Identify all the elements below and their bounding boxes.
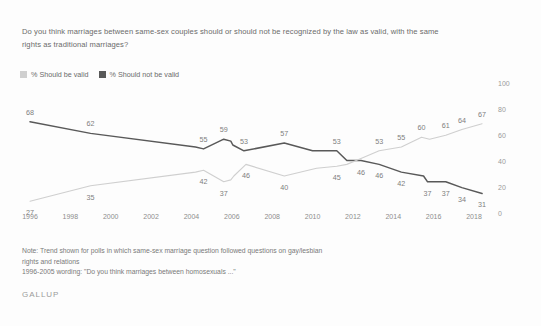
- chart-note: Note: Trend shown for polls in which sam…: [22, 246, 442, 278]
- gallup-logo: GALLUP: [22, 290, 59, 299]
- data-label: 55: [397, 132, 405, 141]
- x-tick-2016: 2016: [426, 213, 442, 220]
- legend-item-should-be-valid: % Should be valid: [20, 70, 89, 79]
- data-label: 57: [280, 129, 288, 138]
- chart-plot-area: 6862555953575346464237373431273542374640…: [20, 86, 490, 211]
- y-axis-tick-labels: 100806040200: [498, 80, 532, 216]
- data-label: 64: [458, 115, 466, 124]
- data-label: 31: [478, 200, 486, 209]
- legend-label-should-be-valid: % Should be valid: [31, 70, 89, 79]
- legend-swatch-should-be-valid: [20, 71, 27, 78]
- x-tick-2004: 2004: [184, 213, 200, 220]
- data-label: 42: [397, 179, 405, 188]
- y-tick-100: 100: [498, 80, 510, 87]
- data-label: 37: [424, 188, 432, 197]
- data-label: 37: [442, 188, 450, 197]
- chart-question: Do you think marriages between same-sex …: [22, 26, 452, 51]
- y-tick-60: 60: [498, 132, 506, 139]
- x-tick-1998: 1998: [63, 213, 79, 220]
- data-label: 42: [200, 177, 208, 186]
- y-tick-0: 0: [498, 210, 502, 217]
- data-label: 59: [220, 125, 228, 134]
- x-tick-2000: 2000: [103, 213, 119, 220]
- x-tick-2018: 2018: [466, 213, 482, 220]
- x-tick-2014: 2014: [385, 213, 401, 220]
- data-label: 55: [200, 134, 208, 143]
- data-label: 46: [242, 171, 250, 180]
- legend-item-should-not-be-valid: % Should not be valid: [99, 70, 180, 79]
- data-label: 53: [375, 136, 383, 145]
- x-axis-tick-labels: 1996199820002002200420062008201020122014…: [20, 213, 490, 227]
- data-label: 35: [87, 192, 95, 201]
- chart-legend: % Should be valid % Should not be valid: [20, 70, 179, 79]
- x-tick-2002: 2002: [143, 213, 159, 220]
- note-line-3: 1996-2005 wording: "Do you think marriag…: [22, 267, 442, 278]
- x-tick-1996: 1996: [22, 213, 38, 220]
- data-label: 45: [333, 173, 341, 182]
- data-label: 53: [240, 136, 248, 145]
- line-should-be-valid: [30, 124, 482, 202]
- data-label: 37: [220, 188, 228, 197]
- note-line-1: Note: Trend shown for polls in which sam…: [22, 246, 442, 257]
- y-tick-40: 40: [498, 158, 506, 165]
- data-label: 53: [333, 136, 341, 145]
- x-tick-2006: 2006: [224, 213, 240, 220]
- y-tick-80: 80: [498, 106, 506, 113]
- line-should-not-be-valid: [30, 122, 482, 194]
- x-tick-2008: 2008: [264, 213, 280, 220]
- data-label: 34: [458, 194, 466, 203]
- chart-page: Do you think marriages between same-sex …: [0, 0, 541, 326]
- legend-label-should-not-be-valid: % Should not be valid: [110, 70, 180, 79]
- data-label: 60: [418, 123, 426, 132]
- legend-swatch-should-not-be-valid: [99, 71, 106, 78]
- data-label: 40: [280, 183, 288, 192]
- x-tick-2012: 2012: [345, 213, 361, 220]
- note-line-2: rights and relations: [22, 257, 442, 268]
- data-label: 46: [357, 167, 365, 176]
- data-label: 67: [478, 109, 486, 118]
- data-label: 46: [375, 171, 383, 180]
- data-label: 68: [26, 107, 34, 116]
- y-tick-20: 20: [498, 184, 506, 191]
- x-tick-2010: 2010: [305, 213, 321, 220]
- data-label: 62: [87, 119, 95, 128]
- data-label: 61: [442, 121, 450, 130]
